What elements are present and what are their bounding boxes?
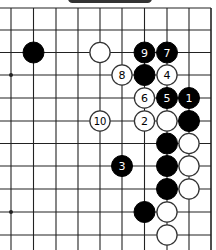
- move-number: 2: [141, 115, 148, 128]
- move-number: 3: [119, 160, 126, 173]
- black-stone: [23, 42, 44, 63]
- white-stone: [157, 225, 177, 245]
- move-number: 5: [164, 92, 171, 105]
- black-stone: 5: [157, 88, 178, 109]
- move-number: 1: [186, 92, 193, 105]
- white-stone: [90, 42, 110, 62]
- star-point: [9, 73, 13, 77]
- move-number: 8: [119, 69, 126, 82]
- white-stone: 6: [134, 88, 154, 108]
- black-stone: 3: [112, 156, 133, 177]
- move-number: 10: [94, 116, 107, 127]
- black-stone: [157, 156, 178, 177]
- black-stone: [134, 65, 155, 86]
- white-stone: 8: [112, 65, 132, 85]
- white-stone: 2: [134, 111, 154, 131]
- black-stone: [179, 111, 200, 132]
- move-number: 9: [141, 47, 148, 60]
- move-number: 6: [141, 92, 148, 105]
- go-board: 97846511023: [0, 0, 216, 250]
- white-stone: [179, 133, 199, 153]
- move-number: 7: [164, 47, 171, 60]
- black-stone: [134, 202, 155, 223]
- white-stone: [179, 156, 199, 176]
- star-point: [9, 210, 13, 214]
- black-stone: [157, 179, 178, 200]
- move-number: 4: [164, 69, 171, 82]
- black-stone: 1: [179, 88, 200, 109]
- black-stone: 7: [157, 42, 178, 63]
- black-stone: [157, 133, 178, 154]
- white-stone: [179, 179, 199, 199]
- white-stone: 4: [157, 65, 177, 85]
- white-stone: [157, 202, 177, 222]
- black-stone: 9: [134, 42, 155, 63]
- white-stone: 10: [90, 111, 110, 131]
- white-stone: [157, 111, 177, 131]
